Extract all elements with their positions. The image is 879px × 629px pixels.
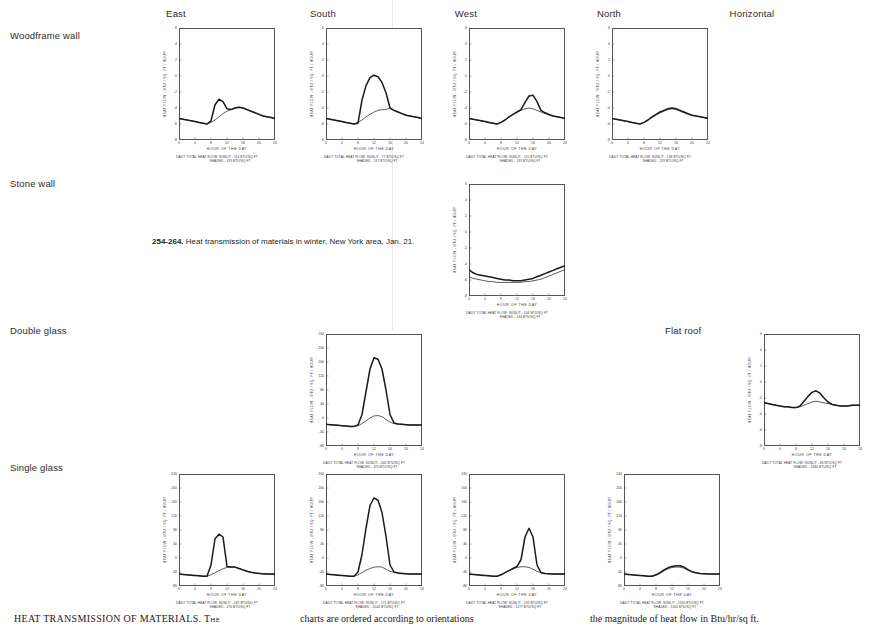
x-tick: 16 <box>531 141 535 145</box>
y-tick: -6 <box>607 122 610 126</box>
x-tick: 12 <box>372 141 376 145</box>
x-tick: 24 <box>273 587 277 591</box>
x-tick: 4 <box>341 447 343 451</box>
plot-area <box>612 28 708 140</box>
flat-roof-label: Flat roof <box>665 325 701 336</box>
x-tick: 0 <box>468 587 470 591</box>
x-tick: 24 <box>420 587 424 591</box>
y-tick: 80 <box>463 528 467 532</box>
x-tick: 20 <box>547 141 551 145</box>
chart-footnote: DAILY TOTAL HEAT FLOW: SUNLIT - 133 BTU/… <box>445 601 569 610</box>
series-sunlit <box>469 95 565 124</box>
x-tick: 0 <box>763 447 765 451</box>
x-tick: 16 <box>241 141 245 145</box>
y-tick: -8 <box>174 138 177 142</box>
y-tick-labels: 24020016012080400-40-80 <box>445 474 467 586</box>
y-tick: -40 <box>172 570 177 574</box>
y-tick: 40 <box>463 542 467 546</box>
plot-area <box>326 334 422 446</box>
x-axis-label: HOUR OF THE DAY <box>612 147 708 151</box>
y-tick: 120 <box>171 514 177 518</box>
footnote-shaded: SHADED - 1480 BTU/SQ FT <box>740 465 864 469</box>
footnote-shaded: SHADED - 1160 BTU/SQ FT <box>600 605 724 609</box>
body-column-2: charts are ordered according to orientat… <box>300 612 590 629</box>
footnote-shaded: SHADED - 476 BTU/SQ FT <box>155 605 279 609</box>
x-tick: 4 <box>194 141 196 145</box>
y-tick: 6 <box>760 332 762 336</box>
x-tick: 16 <box>826 447 830 451</box>
y-tick: 0 <box>465 230 467 234</box>
y-tick: 80 <box>173 528 177 532</box>
y-tick: 6 <box>175 26 177 30</box>
chart-footnote: DAILY TOTAL HEAT FLOW: SUNLIT - 46 BTU/S… <box>740 461 864 470</box>
body-column-3: the magnitude of heat flow in Btu/hr/sq … <box>590 612 879 629</box>
x-tick: 24 <box>420 141 424 145</box>
x-tick: 4 <box>627 141 629 145</box>
x-tick: 20 <box>257 587 261 591</box>
chart-footnote: DAILY TOTAL HEAT FLOW: SUNLIT - 114 BTU/… <box>155 155 279 164</box>
y-tick: -80 <box>462 584 467 588</box>
x-axis-label: HOUR OF THE DAY <box>469 147 565 151</box>
y-tick: 4 <box>760 348 762 352</box>
y-tick: -4 <box>607 106 610 110</box>
x-tick: 8 <box>655 587 657 591</box>
y-tick: 40 <box>320 402 324 406</box>
x-tick: 12 <box>670 587 674 591</box>
y-tick: 160 <box>461 500 467 504</box>
x-tick: 12 <box>658 141 662 145</box>
chart-woodframe-north: HEAT FLOW - BTU / SQ. FT./ HOUR6420-2-4-… <box>588 20 712 170</box>
y-tick: 6 <box>322 26 324 30</box>
y-tick: 4 <box>322 42 324 46</box>
x-tick: 20 <box>547 297 551 301</box>
x-tick: 4 <box>341 587 343 591</box>
y-tick: 200 <box>318 346 324 350</box>
footnote-shaded: SHADED - 1044 BTU/SQ FT <box>302 605 426 609</box>
plot-area <box>469 28 565 140</box>
column-header-east: East <box>116 8 236 19</box>
chart-stone-west: HEAT FLOW - BTU / SQ. FT./ HOUR6420-2-4-… <box>445 176 569 326</box>
y-tick: -6 <box>174 122 177 126</box>
x-tick: 16 <box>388 141 392 145</box>
y-tick: 4 <box>608 42 610 46</box>
x-axis-label: HOUR OF THE DAY <box>179 147 275 151</box>
x-tick: 20 <box>404 141 408 145</box>
x-tick: 16 <box>241 587 245 591</box>
plot-area <box>764 334 860 446</box>
row-label-woodframe-wall: Woodframe wall <box>10 30 80 41</box>
y-tick-labels: 24020016012080400-40-80 <box>600 474 622 586</box>
y-tick: 0 <box>322 74 324 78</box>
y-tick-labels: 6420-2-4-6-8 <box>445 184 467 296</box>
x-tick: 20 <box>842 447 846 451</box>
x-tick: 24 <box>273 141 277 145</box>
figure-number: 254-264. <box>152 237 184 246</box>
row-label-double-glass: Double glass <box>10 325 67 336</box>
y-tick: 200 <box>616 486 622 490</box>
chart-single-glass-north: HEAT FLOW - BTU / SQ. FT./ HOUR240200160… <box>600 466 724 616</box>
chart-flat-roof-horizontal: HEAT FLOW - BTU / SQ. FT./ HOUR6420-2-4-… <box>740 326 864 476</box>
x-tick: 12 <box>372 587 376 591</box>
y-tick: -40 <box>462 570 467 574</box>
x-axis-label: HOUR OF THE DAY <box>326 593 422 597</box>
y-tick: -8 <box>464 294 467 298</box>
x-tick: 16 <box>674 141 678 145</box>
x-tick: 24 <box>563 141 567 145</box>
x-axis-label: HOUR OF THE DAY <box>764 453 860 457</box>
y-tick: 120 <box>318 374 324 378</box>
x-tick: 4 <box>779 447 781 451</box>
x-tick: 12 <box>515 587 519 591</box>
x-tick: 24 <box>563 297 567 301</box>
y-tick: 4 <box>465 198 467 202</box>
x-tick: 4 <box>341 141 343 145</box>
y-tick: 0 <box>465 556 467 560</box>
x-tick: 12 <box>225 141 229 145</box>
series-sunlit <box>326 75 422 124</box>
y-tick: 0 <box>175 74 177 78</box>
chart-footnote: DAILY TOTAL HEAT FLOW: SUNLIT - 138 BTU/… <box>588 155 712 164</box>
y-tick-labels: 6420-2-4-6-8 <box>302 28 324 140</box>
plot-area <box>624 474 720 586</box>
y-tick: -8 <box>464 138 467 142</box>
x-tick: 16 <box>388 447 392 451</box>
y-tick: -40 <box>617 570 622 574</box>
x-tick: 12 <box>515 297 519 301</box>
y-tick: 0 <box>175 556 177 560</box>
